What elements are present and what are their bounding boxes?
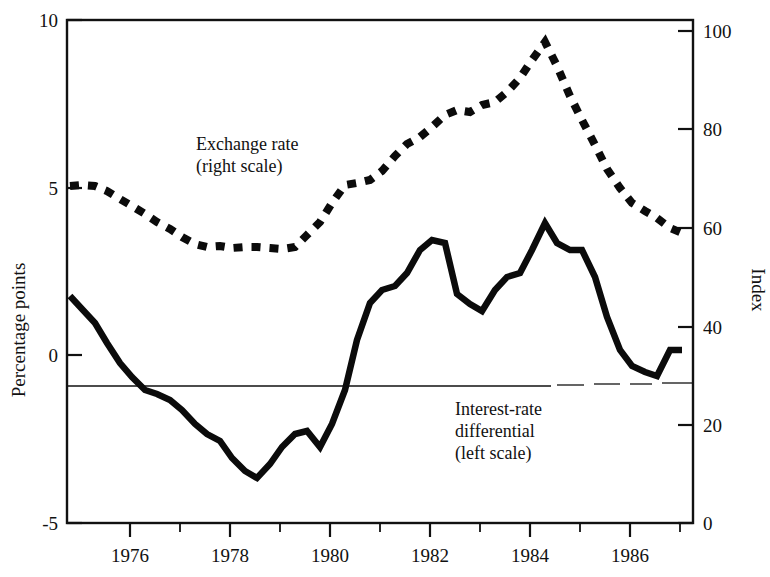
plot-frame (67, 20, 693, 523)
x-axis-tick-label: 1984 (511, 545, 550, 566)
y2-axis-tick-label: 40 (703, 317, 722, 338)
annotation-exchange-rate-line1: Exchange rate (196, 134, 298, 154)
x-axis-tick-label: 1978 (211, 545, 249, 566)
annotation-exchange-rate-line2: (right scale) (196, 156, 282, 177)
figure-container: 10 5 0 -5 100 80 60 40 20 0 1976 1978 19… (0, 0, 770, 577)
y-axis-tick-label: 10 (39, 10, 58, 31)
x-axis-tick-label: 1986 (611, 545, 649, 566)
y-axis-tick-label: -5 (42, 513, 58, 534)
y2-axis-tick-label: 20 (703, 415, 722, 436)
right-axis-ticks (678, 31, 693, 523)
y-axis-title: Percentage points (8, 263, 29, 398)
series-exchange-rate (70, 42, 682, 249)
annotation-interest-rate-line2: differential (455, 421, 535, 441)
x-axis-tick-label: 1982 (411, 545, 449, 566)
annotation-interest-rate: Interest-rate differential (left scale) (455, 399, 542, 464)
chart-svg: 10 5 0 -5 100 80 60 40 20 0 1976 1978 19… (0, 0, 770, 577)
x-axis-tick-label: 1976 (111, 545, 149, 566)
y2-axis-title: Index (748, 268, 769, 312)
y2-axis-tick-label: 0 (703, 513, 713, 534)
annotation-exchange-rate: Exchange rate (right scale) (196, 134, 298, 177)
y2-axis-tick-label: 80 (703, 119, 722, 140)
left-axis-ticks (67, 20, 82, 523)
y-axis-tick-label: 0 (49, 345, 59, 366)
y2-axis-tick-label: 60 (703, 218, 722, 239)
zero-reference-line (67, 383, 693, 386)
y-axis-tick-label: 5 (49, 178, 59, 199)
series-interest-rate-differential (70, 223, 682, 478)
y2-axis-tick-label: 100 (703, 21, 732, 42)
annotation-interest-rate-line1: Interest-rate (455, 399, 542, 419)
x-axis-tick-label: 1980 (311, 545, 349, 566)
annotation-interest-rate-line3: (left scale) (455, 443, 531, 464)
